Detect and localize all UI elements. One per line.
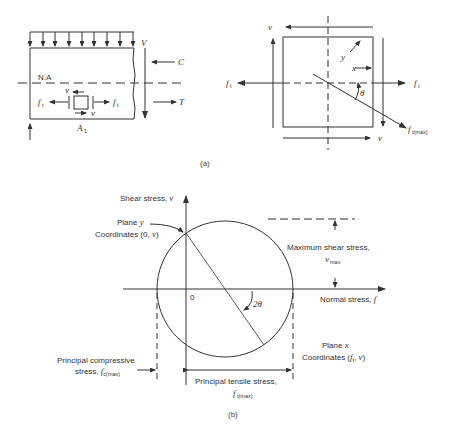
stress-diagram: V C T N.A f t f t v v A 1 v v y [0, 0, 456, 436]
svg-text:Principal tensile stress,: Principal tensile stress, [195, 377, 277, 386]
svg-text:v: v [378, 133, 382, 143]
stress-element [74, 96, 88, 109]
distributed-load-arrows [30, 32, 133, 46]
svg-text:y: y [340, 52, 345, 62]
svg-text:t: t [230, 83, 232, 89]
beam-segment [18, 32, 185, 140]
mohr-labels: Shear stress, v Plane y Coordinates (0, … [57, 193, 378, 399]
svg-text:v: v [325, 254, 329, 264]
shear-label: V [141, 38, 148, 48]
svg-text:v: v [268, 22, 272, 32]
svg-text:Coordinates (ft, v): Coordinates (ft, v) [302, 352, 366, 363]
shear-bottom-label: v [91, 108, 95, 118]
svg-text:θ: θ [360, 88, 365, 98]
svg-text:Plane x: Plane x [322, 340, 349, 350]
svg-text:Maximum shear stress,: Maximum shear stress, [287, 243, 370, 252]
principal-direction [313, 74, 406, 128]
svg-text:t: t [418, 83, 420, 89]
stress-element-detail [238, 16, 406, 150]
svg-text:t(max): t(max) [412, 129, 428, 135]
beam-labels: V C T N.A f t f t v v A 1 [38, 38, 185, 134]
svg-text:stress, fc(max): stress, fc(max) [75, 366, 120, 377]
origin-label: 0 [190, 293, 195, 302]
svg-text:max: max [330, 259, 341, 265]
svg-text:x: x [351, 63, 356, 73]
angle-2theta-label: 2θ [253, 299, 263, 309]
y-axis-label: Shear stress, v [120, 193, 173, 203]
area-label: A [76, 123, 83, 133]
neutral-axis-label: N.A [38, 73, 52, 82]
svg-text:t: t [42, 102, 44, 108]
svg-text:1: 1 [84, 128, 87, 134]
svg-text:Plane y: Plane y [117, 217, 144, 227]
svg-text:Principal compressive: Principal compressive [57, 356, 135, 365]
caption-b: (b) [228, 410, 238, 419]
svg-text:t: t [117, 102, 119, 108]
svg-text:Coordinates (0, v): Coordinates (0, v) [95, 229, 159, 239]
x-axis-label: Normal stress, f [320, 294, 378, 304]
compression-label: C [178, 57, 185, 67]
tension-label: T [179, 97, 185, 107]
caption-a: (a) [200, 159, 210, 168]
shear-top-label: v [65, 85, 69, 95]
svg-text:t(max): t(max) [237, 393, 253, 399]
